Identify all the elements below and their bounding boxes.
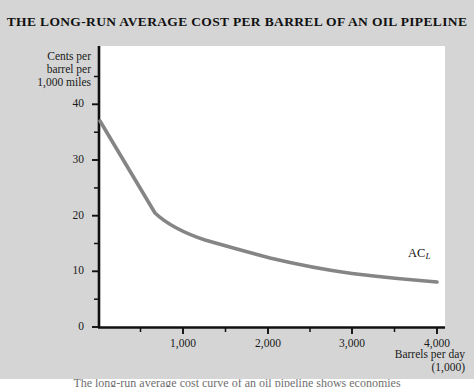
x-axis-title: Barrels per day (1,000) [315,348,465,374]
y-tick-label-40: 40 [44,97,84,109]
x-tick-label-1000: 1,000 [153,337,213,349]
curve-label-main: AC [408,246,425,260]
y-tick-label-0: 0 [44,320,84,332]
y-tick-label-20: 20 [44,209,84,221]
x-tick-label-2000: 2,000 [238,337,298,349]
y-axis-title-line-3: 1,000 miles [0,76,91,89]
average-cost-curve [100,121,437,282]
figure-panel: THE LONG-RUN AVERAGE COST PER BARREL OF … [0,0,474,387]
y-tick-label-30: 30 [44,153,84,165]
x-axis-title-line-1: Barrels per day [315,348,465,361]
y-axis-title-line-1: Cents per [0,50,91,63]
x-axis-title-line-2: (1,000) [315,361,465,374]
y-tick-label-10: 10 [44,264,84,276]
caption-strip: The long-run average cost curve of an oi… [0,379,474,387]
y-axis-title: Cents per barrel per 1,000 miles [0,50,91,90]
curve-label-subscript: L [425,251,430,261]
caption-text: The long-run average cost curve of an oi… [0,379,474,387]
y-axis-title-line-2: barrel per [0,63,91,76]
curve-label-acl: ACL [408,246,430,261]
